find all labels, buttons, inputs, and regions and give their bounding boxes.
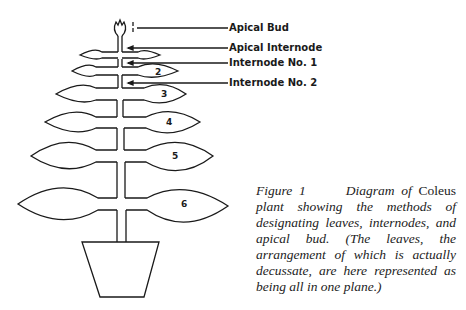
caption-part1: Diagram of: [346, 183, 412, 198]
flower-pot: [82, 242, 159, 297]
caption-part2: plant showing the methods of designating…: [256, 199, 456, 294]
caption-genus: Coleus: [419, 183, 457, 198]
label-internode-1: Internode No. 1: [229, 57, 317, 68]
label-apical-bud: Apical Bud: [229, 22, 289, 33]
figure-number: Figure 1: [256, 183, 306, 198]
leaf-number-4: 4: [166, 117, 172, 127]
leaf-number-3: 3: [161, 89, 167, 99]
figure-caption: Figure 1 Diagram of Coleus plant showing…: [256, 183, 456, 295]
label-apical-internode: Apical Internode: [229, 42, 322, 53]
apical-bud-icon: [114, 20, 125, 36]
leaf-number-6: 6: [181, 199, 187, 209]
leaves: [18, 50, 228, 222]
leaf-number-2: 2: [155, 67, 161, 77]
leaf-number-5: 5: [172, 151, 178, 161]
label-internode-2: Internode No. 2: [229, 77, 317, 88]
